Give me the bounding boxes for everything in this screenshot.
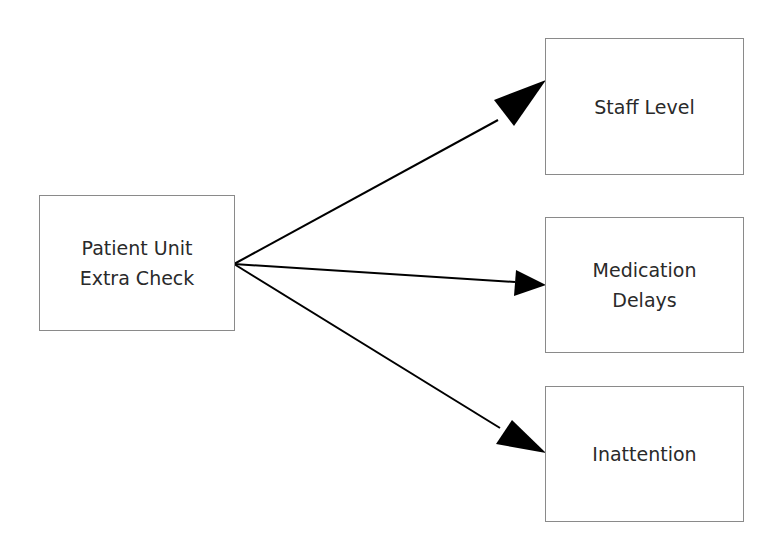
node-label: Inattention — [592, 439, 696, 469]
node-label-line: Delays — [593, 285, 697, 315]
node-patient-unit-extra-check: Patient Unit Extra Check — [39, 195, 235, 331]
node-label-line: Staff Level — [594, 92, 694, 122]
arrowhead-icon — [496, 420, 546, 453]
node-label-line: Inattention — [592, 439, 696, 469]
node-inattention: Inattention — [545, 386, 744, 522]
node-label-line: Medication — [593, 255, 697, 285]
node-label-line: Patient Unit — [80, 233, 195, 263]
arrowhead-icon — [514, 270, 546, 296]
arrow-to-inattention — [234, 264, 546, 453]
arrowhead-icon — [494, 80, 546, 126]
node-label: Medication Delays — [593, 255, 697, 315]
arrow-to-medication-delays — [234, 264, 546, 296]
arrow-to-staff-level — [234, 80, 546, 264]
node-label-line: Extra Check — [80, 263, 195, 293]
node-medication-delays: Medication Delays — [545, 217, 744, 353]
node-label: Patient Unit Extra Check — [80, 233, 195, 293]
node-label: Staff Level — [594, 92, 694, 122]
node-staff-level: Staff Level — [545, 38, 744, 175]
